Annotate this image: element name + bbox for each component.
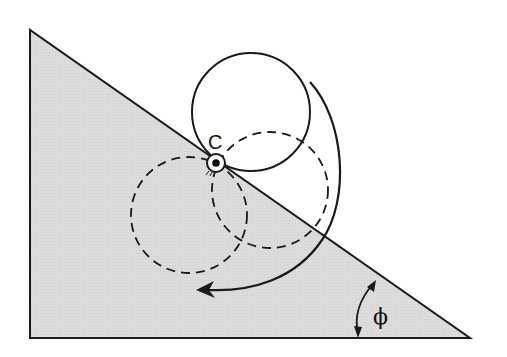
rolling-disk-diagram: C ϕ (0, 0, 507, 357)
angle-label: ϕ (373, 304, 388, 329)
solid-circle (192, 53, 310, 171)
pivot-label: C (208, 131, 222, 153)
